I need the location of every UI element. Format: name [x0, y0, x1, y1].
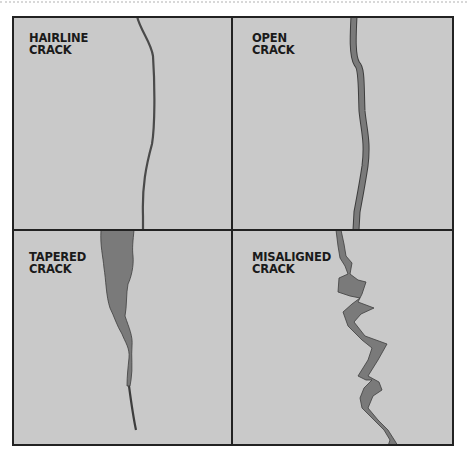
crack-diagram-svg [12, 16, 454, 446]
label-misaligned-crack: MISALIGNED CRACK [252, 251, 362, 275]
label-line-2: CRACK [252, 263, 362, 275]
label-open-crack: OPEN CRACK [252, 32, 362, 56]
label-line-2: CRACK [29, 263, 139, 275]
label-line-2: CRACK [29, 44, 139, 56]
label-hairline-crack: HAIRLINE CRACK [29, 32, 139, 56]
crack-types-diagram: HAIRLINE CRACK OPEN CRACK TAPERED CRACK … [12, 16, 454, 446]
label-line-2: CRACK [252, 44, 362, 56]
label-tapered-crack: TAPERED CRACK [29, 251, 139, 275]
top-dotted-rule [0, 1, 467, 3]
